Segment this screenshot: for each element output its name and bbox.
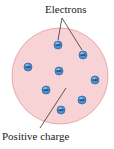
minus-sign-icon — [44, 89, 49, 90]
minus-sign-icon — [93, 79, 98, 80]
minus-sign-icon — [80, 99, 85, 100]
electrons-label: Electrons — [45, 3, 87, 15]
minus-sign-icon — [57, 70, 62, 71]
positive-charge-label: Positive charge — [2, 130, 69, 142]
minus-sign-icon — [26, 66, 31, 67]
plum-pudding-diagram — [0, 0, 114, 149]
electron-icon — [24, 63, 32, 71]
electron-icon — [78, 96, 86, 104]
electron-icon — [42, 86, 50, 94]
electron-icon — [57, 106, 65, 114]
electron-icon — [54, 41, 62, 49]
minus-sign-icon — [56, 44, 61, 45]
minus-sign-icon — [59, 109, 64, 110]
electron-icon — [55, 67, 63, 75]
electron-icon — [91, 76, 99, 84]
electron-icon — [79, 51, 87, 59]
minus-sign-icon — [81, 54, 86, 55]
